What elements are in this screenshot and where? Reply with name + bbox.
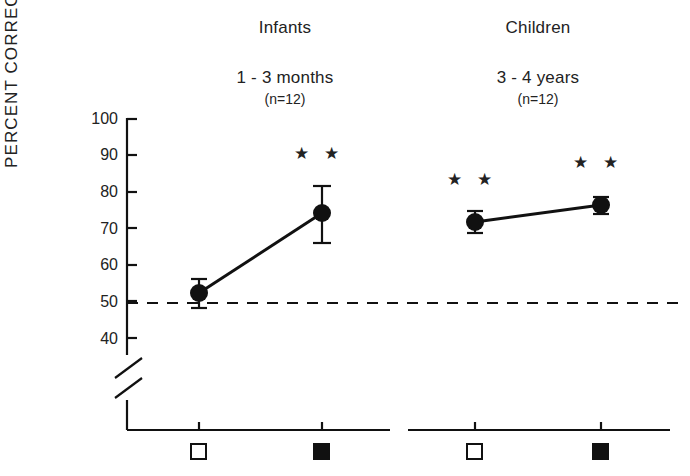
legend-filled-square-infants: [313, 443, 330, 460]
data-point-infants-filled: [313, 204, 331, 222]
data-point-children-filled: [592, 196, 610, 214]
legend-filled-square-children: [592, 443, 609, 460]
x-axis-infants: [127, 422, 390, 430]
figure-canvas: Infants 1 - 3 months (n=12) Children 3 -…: [0, 0, 690, 476]
series-children: [466, 196, 610, 233]
data-point-children-open: [466, 213, 484, 231]
y-tick-marks: [127, 119, 137, 338]
series-infants: [190, 186, 331, 308]
data-point-infants-open: [190, 284, 208, 302]
legend-open-square-infants: [190, 443, 207, 460]
legend-open-square-children: [466, 443, 483, 460]
axis-break-icon: [115, 358, 142, 398]
x-axis-children: [408, 422, 670, 430]
plot-vector-layer: [0, 0, 690, 476]
